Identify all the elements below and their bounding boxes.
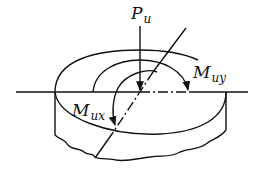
moment-y-label: Muy — [193, 64, 226, 84]
moment-y-label-main: M — [193, 62, 210, 82]
diagram-canvas: Pu Muy Mux — [0, 0, 260, 175]
force-label: Pu — [131, 5, 151, 25]
force-label-main: P — [131, 3, 142, 23]
inclined-axis-lower — [95, 134, 112, 158]
moment-x-arc — [113, 71, 157, 125]
force-label-sub: u — [143, 12, 151, 26]
moment-x-label-main: M — [72, 100, 89, 120]
disc-drawing — [0, 0, 260, 175]
moment-y-label-sub: uy — [211, 71, 226, 85]
moment-x-label-sub: ux — [90, 109, 105, 123]
moment-x-label: Mux — [72, 102, 105, 122]
inclined-axis-center — [112, 72, 153, 134]
